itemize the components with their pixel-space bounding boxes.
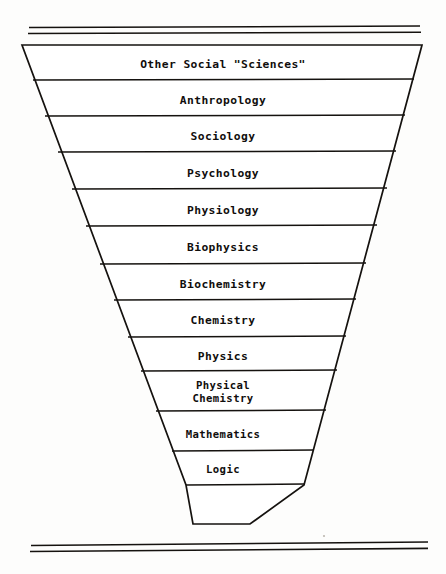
- band-divider-7: [128, 336, 346, 337]
- band-divider-4: [86, 225, 377, 226]
- band-divider-2: [58, 151, 396, 152]
- band-label-physics: Physics: [198, 350, 248, 363]
- band-label-chemistry: Chemistry: [191, 314, 256, 327]
- band-label-logic: Logic: [206, 463, 240, 475]
- band-label-sociology: Sociology: [191, 130, 256, 143]
- band-label-physical-chemistry-line2: Chemistry: [192, 392, 253, 404]
- band-label-physiology: Physiology: [187, 204, 259, 217]
- band-divider-1: [45, 115, 405, 116]
- band-label-biophysics: Biophysics: [187, 241, 259, 254]
- band-label-biochemistry: Biochemistry: [180, 278, 266, 291]
- band-divider-0: [33, 79, 414, 80]
- figure-page: Other Social "Sciences" Anthropology Soc…: [0, 0, 446, 574]
- band-divider-8: [141, 370, 337, 371]
- band-label-anthropology: Anthropology: [180, 94, 266, 107]
- band-divider-11: [186, 484, 304, 485]
- band-label-psychology: Psychology: [187, 167, 259, 180]
- band-label-other-social-sciences: Other Social "Sciences": [140, 58, 306, 71]
- bottom-double-rule: [30, 542, 428, 552]
- band-label-physical-chemistry-line1: Physical: [196, 379, 250, 391]
- science-funnel-diagram: Other Social "Sciences" Anthropology Soc…: [0, 0, 446, 574]
- band-divider-3: [72, 188, 387, 189]
- band-divider-9: [156, 410, 326, 411]
- band-divider-10: [172, 450, 314, 451]
- band-label-mathematics: Mathematics: [186, 428, 261, 440]
- band-divider-5: [100, 263, 366, 264]
- top-double-rule: [28, 26, 421, 34]
- scan-speck: [323, 535, 325, 537]
- band-divider-6: [114, 299, 356, 300]
